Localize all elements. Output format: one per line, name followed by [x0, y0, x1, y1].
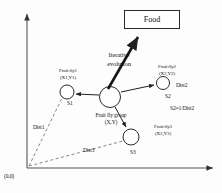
fruit-fly3-label-line1: Fruit fly3: [142, 124, 184, 129]
fruit-fly2-label-line2: (X2,Y2): [146, 71, 188, 76]
smell-formula-label: S2=1/Dist2: [170, 106, 194, 112]
fruit-fly3-smell-label: S3: [130, 150, 136, 156]
fruit-fly1-smell-label: S1: [67, 101, 73, 107]
arrow-group-to-fly2: [121, 85, 154, 92]
fruit-fly1-circle: [60, 85, 74, 99]
dist3-dashed-line: [29, 141, 123, 166]
fruit-fly-group-label-line1: Fruit fly group: [80, 113, 142, 119]
figure-canvas: Food Iterative evolution Fruit fly1 (X1,…: [0, 0, 222, 193]
fruit-fly2-label-line1: Fruit fly2: [146, 64, 188, 69]
fruit-fly-group-circle: [100, 87, 121, 108]
fruit-fly3-circle: [123, 129, 139, 145]
food-label: Food: [144, 15, 160, 24]
origin-label: (0,0): [4, 174, 14, 180]
fruit-fly-group-label-line2: (X,Y): [80, 120, 142, 126]
dist1-dashed-line: [29, 98, 62, 166]
diagram-graphics: [0, 0, 222, 193]
fruit-fly1-label-line2: (X1,Y1): [47, 75, 89, 80]
iterative-evolution-label-line2: evolution: [97, 61, 141, 68]
fruit-fly3-label-line2: (X3,Y3): [142, 131, 184, 136]
dist1-label: Dist1: [33, 125, 44, 131]
dist3-label: Dist3: [83, 148, 94, 154]
fruit-fly2-circle: [157, 77, 170, 90]
fruit-fly1-label-line1: Fruit fly1: [47, 68, 89, 73]
arrow-group-to-fly1: [76, 94, 99, 95]
food-box: Food: [124, 10, 180, 29]
iterative-evolution-label-line1: Iterative: [97, 52, 141, 59]
dist2-label: Dist2: [176, 83, 187, 89]
fruit-fly2-smell-label: S2: [165, 94, 171, 100]
